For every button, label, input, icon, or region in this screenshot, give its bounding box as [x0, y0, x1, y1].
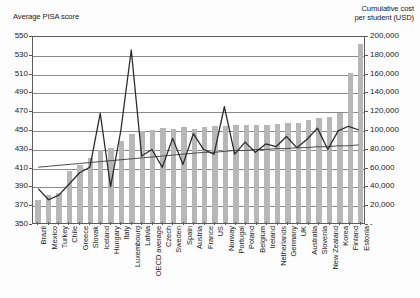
x-axis-tick-mark	[318, 222, 319, 225]
x-axis-tick-label: Greece	[82, 226, 89, 250]
x-axis-tick-mark	[68, 222, 69, 225]
right-axis-tick-label: 80,000	[370, 145, 394, 153]
x-axis-tick-label: Brazil	[40, 226, 47, 244]
right-axis-tick-mark	[365, 36, 368, 37]
left-axis-title: Average PISA score	[13, 12, 79, 21]
line-series	[33, 37, 364, 223]
right-axis-tick-label: 120,000	[370, 107, 399, 115]
x-axis-tick-mark	[297, 222, 298, 225]
left-axis-tick-label: 350	[2, 220, 28, 228]
x-axis-tick-label: Estonia	[363, 226, 370, 251]
left-axis-tick-label: 410	[2, 164, 28, 172]
right-axis-tick-mark	[365, 55, 368, 56]
right-axis-tick-mark	[365, 205, 368, 206]
x-axis-tick-label: Ireland	[269, 226, 276, 249]
x-axis-tick-mark	[48, 222, 49, 225]
x-axis-tick-mark	[162, 222, 163, 225]
x-axis-tick-label: Iceland	[103, 226, 110, 250]
x-axis-tick-mark	[225, 222, 226, 225]
x-axis-tick-mark	[235, 222, 236, 225]
right-axis-tick-mark	[365, 149, 368, 150]
x-axis-tick-mark	[58, 222, 59, 225]
x-axis-tick-label: Czech	[165, 226, 172, 247]
x-axis-tick-mark	[37, 222, 38, 225]
x-axis-tick-mark	[245, 222, 246, 225]
x-axis-tick-label: Norway	[228, 226, 235, 251]
x-axis-tick-label: Turkey	[61, 226, 68, 248]
left-axis-tick-label: 530	[2, 51, 28, 59]
x-axis-tick-label: France	[207, 226, 214, 249]
left-axis-tick-label: 470	[2, 107, 28, 115]
right-axis-title: Cumulative cost per student (USD)	[355, 4, 415, 22]
x-axis-tick-mark	[89, 222, 90, 225]
left-axis-tick-label: 550	[2, 32, 28, 40]
x-axis-tick-mark	[141, 222, 142, 225]
x-axis-tick-label: Netherlands	[280, 226, 287, 266]
x-axis-tick-label: Sweden	[175, 226, 182, 253]
x-axis-tick-label: UK	[300, 226, 307, 236]
x-axis-tick-label: Spain	[186, 226, 193, 245]
right-axis-tick-mark	[365, 111, 368, 112]
left-axis-tick-label: 450	[2, 126, 28, 134]
right-axis-tick-mark	[365, 74, 368, 75]
x-axis-tick-mark	[193, 222, 194, 225]
right-axis-title-line1: Cumulative cost	[355, 4, 415, 13]
left-axis-tick-label: 490	[2, 88, 28, 96]
right-axis-tick-mark	[365, 168, 368, 169]
x-axis-tick-mark	[339, 222, 340, 225]
x-axis-tick-mark	[79, 222, 80, 225]
x-axis-tick-mark	[329, 222, 330, 225]
x-axis-tick-mark	[204, 222, 205, 225]
x-axis-tick-label: Korea	[342, 226, 349, 246]
x-axis-tick-label: Latvia	[144, 226, 151, 246]
x-axis-tick-mark	[256, 222, 257, 225]
x-axis-tick-label: Slovenia	[321, 226, 328, 254]
left-axis-tick-label: 390	[2, 182, 28, 190]
x-axis-tick-mark	[287, 222, 288, 225]
left-axis-tick-label: 510	[2, 70, 28, 78]
right-axis-tick-label: 160,000	[370, 70, 399, 78]
x-axis-tick-label: Australia	[311, 226, 318, 255]
x-axis-tick-label: Germany	[290, 226, 297, 256]
chart-root: Average PISA score Cumulative cost per s…	[0, 0, 420, 298]
right-axis-tick-mark	[365, 92, 368, 93]
x-axis-tick-label: Mexico	[51, 226, 58, 249]
pisa-score-line	[38, 50, 359, 200]
x-axis-tick-mark	[131, 222, 132, 225]
left-axis-tick-label: 370	[2, 201, 28, 209]
x-axis-tick-mark	[183, 222, 184, 225]
x-axis-tick-mark	[100, 222, 101, 225]
right-axis-tick-label: 200,000	[370, 32, 399, 40]
right-axis-tick-label: 40,000	[370, 182, 394, 190]
x-axis-tick-mark	[152, 222, 153, 225]
x-axis-tick-label: Hungary	[113, 226, 120, 254]
trend-line	[38, 145, 359, 167]
x-axis-tick-mark	[349, 222, 350, 225]
x-axis-tick-label: New Zealand	[332, 226, 339, 270]
x-axis-labels: BrazilMexicoTurkeyChileGreeceSlovakIcela…	[32, 226, 365, 296]
x-axis-tick-label: Portugal	[238, 226, 245, 254]
x-axis-tick-label: US	[217, 226, 224, 236]
x-axis-tick-label: Belgium	[259, 226, 266, 253]
right-axis-tick-label: 180,000	[370, 51, 399, 59]
x-axis-tick-mark	[172, 222, 173, 225]
x-axis-tick-label: Chile	[71, 226, 78, 243]
x-axis-tick-mark	[277, 222, 278, 225]
x-axis-tick-label: OECD average	[155, 226, 162, 276]
right-axis-tick-mark	[365, 186, 368, 187]
right-axis-tick-label: 60,000	[370, 164, 394, 172]
right-axis-tick-label: 20,000	[370, 201, 394, 209]
right-axis-title-line2: per student (USD)	[355, 13, 415, 22]
x-axis-tick-label: Luxembourg	[134, 226, 141, 267]
x-axis-tick-mark	[266, 222, 267, 225]
x-axis-tick-mark	[214, 222, 215, 225]
x-axis-tick-label: Poland	[248, 226, 255, 249]
right-axis-tick-mark	[365, 130, 368, 131]
x-axis-tick-label: Slovak	[92, 226, 99, 248]
left-axis-tick-label: 430	[2, 145, 28, 153]
x-axis-tick-label: Austria	[196, 226, 203, 249]
x-axis-tick-label: Finland	[352, 226, 359, 250]
plot-area	[32, 36, 365, 224]
right-axis-tick-label: 100,000	[370, 126, 399, 134]
x-axis-tick-mark	[110, 222, 111, 225]
